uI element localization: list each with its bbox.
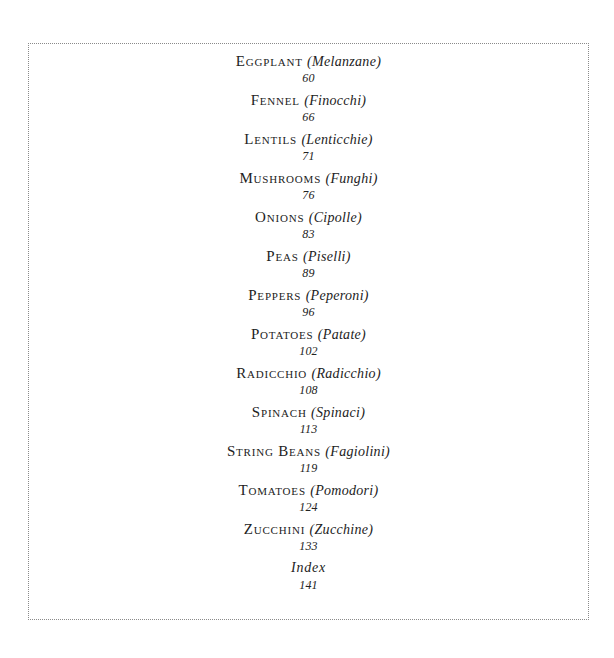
page-number: 66 — [29, 110, 588, 126]
italian-name: (Fagiolini) — [325, 444, 390, 459]
english-name: String Beans — [227, 443, 321, 459]
toc-entry-spinach[interactable]: Spinach (Spinaci) 113 — [29, 402, 588, 441]
toc-entry-title: Peppers (Peperoni) — [29, 285, 588, 305]
toc-list: Eggplant (Melanzane) 60 Fennel (Finocchi… — [29, 51, 588, 597]
page-number: 71 — [29, 149, 588, 165]
page-number: 102 — [29, 344, 588, 360]
page-number: 108 — [29, 383, 588, 399]
english-name: Zucchini — [244, 521, 305, 537]
toc-entry-onions[interactable]: Onions (Cipolle) 83 — [29, 207, 588, 246]
toc-entry-fennel[interactable]: Fennel (Finocchi) 66 — [29, 90, 588, 129]
page-number: 83 — [29, 227, 588, 243]
english-name: Spinach — [252, 404, 307, 420]
english-name: Radicchio — [236, 365, 307, 381]
toc-entry-lentils[interactable]: Lentils (Lenticchie) 71 — [29, 129, 588, 168]
toc-entry-peppers[interactable]: Peppers (Peperoni) 96 — [29, 285, 588, 324]
english-name: Eggplant — [236, 53, 303, 69]
italian-name: (Zucchine) — [310, 522, 374, 537]
italian-name: (Funghi) — [325, 171, 377, 186]
italian-name: (Lenticchie) — [301, 132, 372, 147]
toc-entry-title: Tomatoes (Pomodori) — [29, 480, 588, 500]
english-name: Peas — [266, 248, 298, 264]
toc-entry-peas[interactable]: Peas (Piselli) 89 — [29, 246, 588, 285]
toc-entry-index[interactable]: Index 141 — [29, 558, 588, 597]
page-number: 89 — [29, 266, 588, 282]
toc-entry-title: Onions (Cipolle) — [29, 207, 588, 227]
index-label: Index — [29, 558, 588, 578]
page-number: 119 — [29, 461, 588, 477]
toc-entry-title: Peas (Piselli) — [29, 246, 588, 266]
toc-entry-title: Lentils (Lenticchie) — [29, 129, 588, 149]
toc-entry-zucchini[interactable]: Zucchini (Zucchine) 133 — [29, 519, 588, 558]
english-name: Potatoes — [251, 326, 314, 342]
toc-entry-title: Spinach (Spinaci) — [29, 402, 588, 422]
page-number: 133 — [29, 539, 588, 555]
toc-entry-radicchio[interactable]: Radicchio (Radicchio) 108 — [29, 363, 588, 402]
italian-name: (Peperoni) — [306, 288, 369, 303]
toc-entry-title: Zucchini (Zucchine) — [29, 519, 588, 539]
italian-name: (Piselli) — [303, 249, 351, 264]
page-number: 76 — [29, 188, 588, 204]
italian-name: (Patate) — [318, 327, 366, 342]
english-name: Lentils — [244, 131, 297, 147]
italian-name: (Radicchio) — [311, 366, 380, 381]
english-name: Tomatoes — [238, 482, 305, 498]
italian-name: (Finocchi) — [304, 93, 366, 108]
toc-entry-title: String Beans (Fagiolini) — [29, 441, 588, 461]
italian-name: (Spinaci) — [311, 405, 365, 420]
toc-entry-eggplant[interactable]: Eggplant (Melanzane) 60 — [29, 51, 588, 90]
toc-entry-title: Fennel (Finocchi) — [29, 90, 588, 110]
toc-entry-title: Eggplant (Melanzane) — [29, 51, 588, 71]
page-number: 124 — [29, 500, 588, 516]
toc-entry-title: Potatoes (Patate) — [29, 324, 588, 344]
toc-entry-string-beans[interactable]: String Beans (Fagiolini) 119 — [29, 441, 588, 480]
toc-entry-potatoes[interactable]: Potatoes (Patate) 102 — [29, 324, 588, 363]
toc-entry-mushrooms[interactable]: Mushrooms (Funghi) 76 — [29, 168, 588, 207]
table-of-contents-box: Eggplant (Melanzane) 60 Fennel (Finocchi… — [28, 43, 589, 620]
page-number: 113 — [29, 422, 588, 438]
italian-name: (Cipolle) — [309, 210, 362, 225]
page-number: 96 — [29, 305, 588, 321]
page-number: 141 — [29, 578, 588, 594]
toc-entry-title: Radicchio (Radicchio) — [29, 363, 588, 383]
italian-name: (Melanzane) — [307, 54, 381, 69]
italian-name: (Pomodori) — [310, 483, 378, 498]
english-name: Fennel — [251, 92, 300, 108]
toc-entry-tomatoes[interactable]: Tomatoes (Pomodori) 124 — [29, 480, 588, 519]
english-name: Mushrooms — [239, 170, 321, 186]
english-name: Peppers — [248, 287, 301, 303]
page-number: 60 — [29, 71, 588, 87]
english-name: Onions — [255, 209, 304, 225]
toc-entry-title: Mushrooms (Funghi) — [29, 168, 588, 188]
